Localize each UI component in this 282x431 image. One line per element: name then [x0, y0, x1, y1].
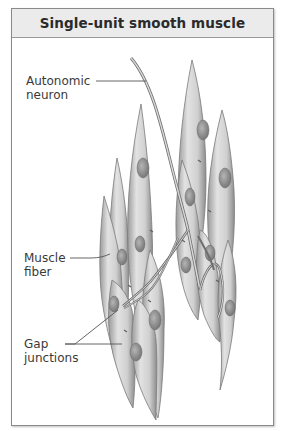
label-gap-junctions-line1: Gap — [24, 337, 78, 351]
left-cell-cluster — [100, 104, 165, 420]
label-gap-junctions-line2: junctions — [24, 351, 78, 365]
label-muscle-fiber-line2: fiber — [24, 265, 66, 279]
label-gap-junctions: Gap junctions — [24, 337, 78, 365]
label-autonomic-neuron-line2: neuron — [26, 88, 90, 102]
label-muscle-fiber: Muscle fiber — [24, 251, 66, 279]
label-autonomic-neuron-line1: Autonomic — [26, 74, 90, 88]
label-muscle-fiber-line1: Muscle — [24, 251, 66, 265]
right-cell-cluster — [176, 60, 236, 390]
smooth-muscle-illustration — [0, 0, 282, 431]
label-autonomic-neuron: Autonomic neuron — [26, 74, 90, 102]
